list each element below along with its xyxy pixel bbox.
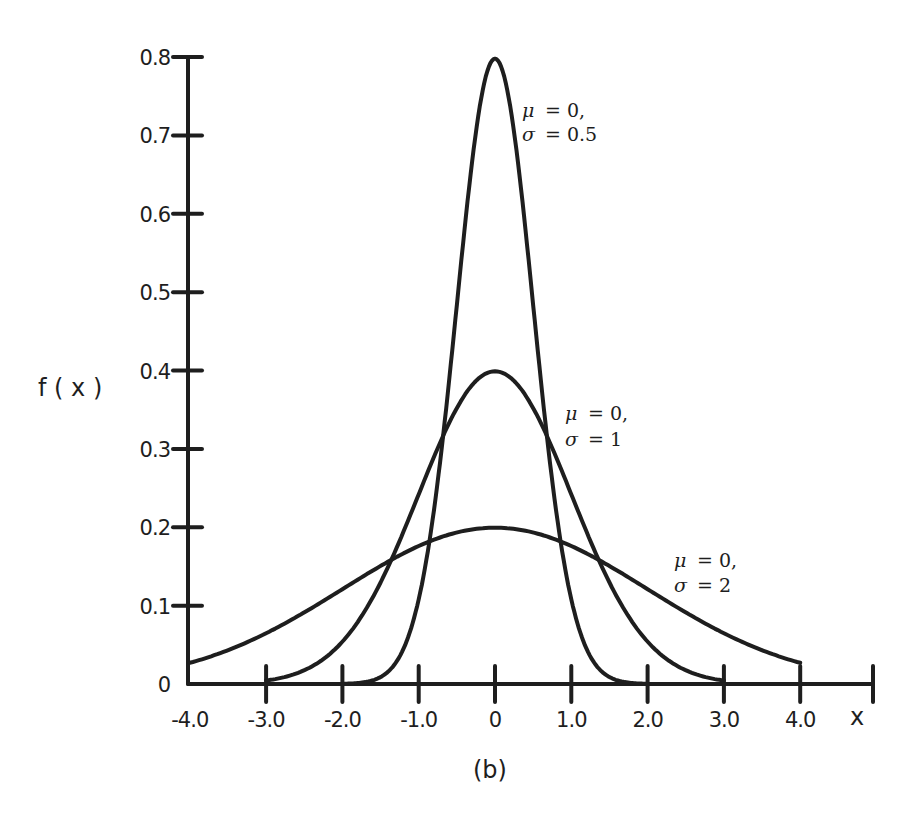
annotation-sigma-0-5: μ = 0, σ = 0.5 xyxy=(522,99,597,145)
annotation-sigma-2: μ = 0, σ = 2 xyxy=(674,549,737,596)
x-tick-label: 1.0 xyxy=(556,708,586,732)
x-tick-label: 3.0 xyxy=(709,708,739,732)
sigma-value: = 1 xyxy=(588,428,622,450)
mu-symbol: μ xyxy=(565,402,577,424)
x-ticks: -4.0-3.0-2.0-1.001.02.03.04.0 xyxy=(171,666,815,732)
mu-symbol: μ xyxy=(522,99,534,121)
sigma-value: = 2 xyxy=(697,574,731,596)
sigma-symbol: σ xyxy=(565,428,579,450)
x-tick-label: 0 xyxy=(489,708,501,732)
axes xyxy=(188,57,873,702)
sigma-value: = 0.5 xyxy=(545,123,597,145)
x-tick-label: -4.0 xyxy=(171,708,208,732)
y-tick-label: 0 xyxy=(158,673,170,697)
y-tick-label: 0.4 xyxy=(140,360,171,384)
y-tick-label: 0.8 xyxy=(140,46,170,70)
x-tick-label: -3.0 xyxy=(248,708,285,732)
y-tick-label: 0.7 xyxy=(140,124,170,148)
x-tick-label: -1.0 xyxy=(400,708,437,732)
y-ticks: 00.10.20.30.40.50.60.70.8 xyxy=(140,46,202,697)
y-tick-label: 0.5 xyxy=(140,281,170,305)
mu-value: = 0, xyxy=(588,402,628,424)
mu-symbol: μ xyxy=(674,549,686,571)
sigma-symbol: σ xyxy=(674,574,688,596)
y-tick-label: 0.2 xyxy=(140,516,170,540)
x-axis-title: x xyxy=(850,703,864,731)
y-tick-label: 0.1 xyxy=(140,595,170,619)
x-tick-label: -2.0 xyxy=(324,708,361,732)
y-axis-title: f ( x ) xyxy=(38,374,102,402)
normal-distribution-chart: 00.10.20.30.40.50.60.70.8 -4.0-3.0-2.0-1… xyxy=(0,0,915,816)
x-tick-label: 2.0 xyxy=(632,708,662,732)
y-tick-label: 0.6 xyxy=(140,203,171,227)
figure-caption: (b) xyxy=(473,756,507,784)
x-tick-label: 4.0 xyxy=(785,708,815,732)
sigma-symbol: σ xyxy=(522,123,536,145)
mu-value: = 0, xyxy=(545,99,585,121)
annotation-sigma-1: μ = 0, σ = 1 xyxy=(565,402,628,450)
y-tick-label: 0.3 xyxy=(140,438,170,462)
mu-value: = 0, xyxy=(697,549,737,571)
